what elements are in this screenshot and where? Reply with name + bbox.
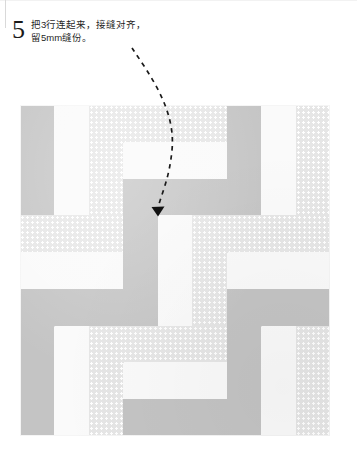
quilt-block: [123, 215, 226, 325]
quilt-strip-dot: [227, 215, 330, 252]
quilt-block: [123, 326, 226, 436]
quilt-strip-white: [123, 142, 226, 179]
quilt-strip-dot: [296, 326, 330, 436]
quilt-block: [20, 105, 123, 215]
quilt-block: [123, 105, 226, 215]
left-margin-rule: [5, 0, 6, 28]
quilt-strip-gray: [227, 289, 330, 326]
step-header: 5 把3行连起来，接缝对齐， 留5mm缝份。: [12, 17, 146, 44]
quilt-strip-gray: [20, 105, 55, 215]
quilt-strip-gray: [20, 289, 123, 326]
quilt-strip-white: [261, 326, 296, 436]
quilt-block: [20, 326, 123, 436]
quilt-strip-white: [227, 252, 330, 289]
instruction-page: 5 把3行连起来，接缝对齐， 留5mm缝份。: [0, 0, 357, 456]
step-number: 5: [12, 17, 25, 43]
quilt-strip-dot: [123, 105, 226, 142]
quilt-strip-dot: [20, 215, 123, 252]
quilt-strip-white: [54, 326, 89, 436]
step-text-line-2: 留5mm缝份。: [31, 32, 146, 45]
quilt-strip-gray: [20, 326, 55, 436]
quilt-strip-gray: [227, 105, 262, 215]
quilt-strip-white: [261, 105, 296, 215]
quilt-strip-white: [158, 215, 193, 325]
quilt-block: [227, 105, 330, 215]
quilt-strip-white: [54, 105, 89, 215]
quilt-strip-white: [20, 252, 123, 289]
quilt-strip-gray: [123, 399, 226, 436]
quilt-strip-gray: [227, 326, 262, 436]
quilt-diagram: [20, 105, 330, 436]
quilt-strip-gray: [123, 215, 158, 325]
step-text-line-1: 把3行连起来，接缝对齐，: [31, 19, 146, 32]
quilt-strip-white: [123, 362, 226, 399]
page-top-divider: [0, 0, 357, 1]
quilt-block: [20, 215, 123, 325]
quilt-strip-gray: [123, 179, 226, 216]
quilt-strip-dot: [192, 215, 226, 325]
step-instruction-text: 把3行连起来，接缝对齐， 留5mm缝份。: [31, 17, 146, 44]
quilt-strip-dot: [123, 326, 226, 363]
quilt-strip-dot: [89, 326, 123, 436]
quilt-strip-dot: [296, 105, 330, 215]
quilt-block: [227, 326, 330, 436]
quilt-block: [227, 215, 330, 325]
quilt-strip-dot: [89, 105, 123, 215]
